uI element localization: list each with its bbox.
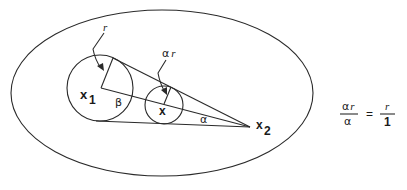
equals-sign: =	[366, 107, 373, 121]
x-label: x	[159, 104, 166, 118]
large-radius-line	[101, 58, 113, 88]
lhs-numerator: αr	[342, 100, 355, 113]
upper-tangent-line	[113, 58, 250, 127]
x2-label: x	[256, 118, 263, 132]
geometry-svg: r αr x 1 x x 2 β α αr α = r 1	[0, 0, 407, 190]
center-line	[101, 88, 250, 127]
alpha-r-leader-line	[158, 60, 166, 92]
x1-subscript: 1	[89, 93, 96, 107]
beta-angle-label: β	[115, 96, 122, 109]
alpha-r-arrowhead-icon	[161, 87, 167, 95]
rhs-denominator: 1	[384, 115, 391, 129]
alpha-angle-label: α	[200, 113, 207, 126]
outer-ellipse	[11, 10, 313, 176]
x2-subscript: 2	[264, 124, 271, 138]
large-radius-label: r	[103, 21, 108, 33]
r-leader-line	[93, 33, 104, 68]
lhs-denominator: α	[344, 115, 351, 128]
ratio-equation: αr α = r 1	[340, 100, 395, 129]
x1-label: x	[80, 87, 88, 102]
small-radius-label: αr	[162, 47, 176, 60]
rhs-numerator: r	[385, 100, 390, 112]
diagram-canvas: r αr x 1 x x 2 β α αr α = r 1	[0, 0, 407, 190]
